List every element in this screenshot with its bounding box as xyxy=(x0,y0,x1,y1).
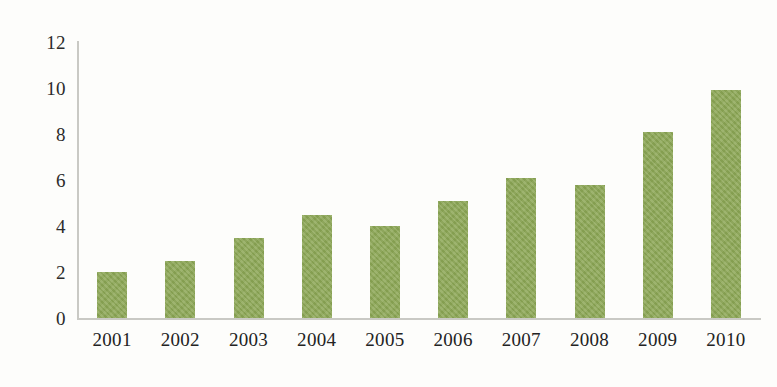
y-axis-tick-label: 0 xyxy=(20,309,66,328)
x-axis-tick-label: 2006 xyxy=(419,330,487,349)
x-axis-tick-label: 2002 xyxy=(146,330,214,349)
y-axis-tick-labels: 024681012 xyxy=(0,0,66,387)
bar xyxy=(234,238,264,319)
x-axis-tick-label: 2004 xyxy=(283,330,351,349)
y-axis-tick-label: 8 xyxy=(20,125,66,144)
x-axis-tick-label: 2007 xyxy=(487,330,555,349)
x-axis-tick-label: 2010 xyxy=(692,330,760,349)
y-axis-tick-label: 6 xyxy=(20,171,66,190)
x-axis-tick-label: 2008 xyxy=(555,330,623,349)
bar xyxy=(438,201,468,318)
x-axis-line xyxy=(77,318,761,320)
y-axis-tick-label: 10 xyxy=(20,79,66,98)
bar xyxy=(302,215,332,319)
bar xyxy=(370,226,400,318)
bar xyxy=(165,261,195,319)
bar xyxy=(506,178,536,318)
x-axis-tick-label: 2005 xyxy=(351,330,419,349)
bar-chart: 024681012 200120022003200420052006200720… xyxy=(0,0,777,387)
bar xyxy=(711,90,741,318)
bar xyxy=(97,272,127,318)
x-axis-tick-label: 2003 xyxy=(214,330,282,349)
y-axis-tick-label: 2 xyxy=(20,263,66,282)
bar xyxy=(575,185,605,318)
x-axis-tick-label: 2009 xyxy=(624,330,692,349)
bar xyxy=(643,132,673,318)
x-axis-tick-label: 2001 xyxy=(78,330,146,349)
y-axis-tick-label: 4 xyxy=(20,217,66,236)
y-axis-tick-label: 12 xyxy=(20,33,66,52)
